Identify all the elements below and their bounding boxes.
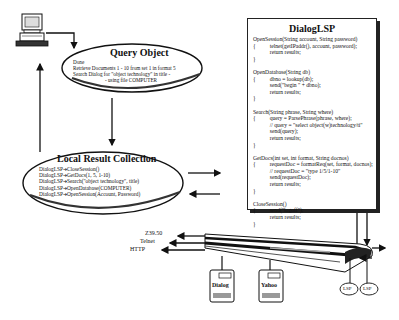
local-result-list: DialogLSP➔CloseSession() DialogLSP➔GetDo… <box>39 166 140 197</box>
dialog-lsp-code: OpenSession(String account, String passw… <box>253 36 376 227</box>
code-line <box>253 62 376 69</box>
code-line: return results; <box>253 181 376 188</box>
code-line: send(query); <box>253 128 376 135</box>
local-result-collection-title: Local Result Collection <box>57 153 156 164</box>
code-line: GetDocs(int set, int format, String docn… <box>253 155 376 162</box>
code-line: } <box>253 221 376 228</box>
code-line: // query = "select object(w)technology/t… <box>253 122 376 129</box>
network-bus <box>205 234 373 272</box>
dialog-lsp-box: DialogLSP OpenSession(String account, St… <box>247 18 377 210</box>
code-line <box>253 148 376 155</box>
code-line: return results; <box>253 214 376 221</box>
dialog-lsp-title: DialogLSP <box>248 23 376 34</box>
code-line <box>253 102 376 109</box>
lsp-label-2: LSP <box>363 286 372 291</box>
server-yahoo-label: Yahoo <box>261 282 277 288</box>
code-line: } <box>253 56 376 63</box>
code-line: } <box>253 95 376 102</box>
code-line: { telnet(getIPaddr(), account, password)… <box>253 43 376 50</box>
protocol-z3950: Z39.50 <box>145 230 162 236</box>
protocol-http: HTTP <box>130 246 145 252</box>
arrow-computer-to-query <box>46 33 74 48</box>
code-line: OpenSession(String account, String passw… <box>253 36 376 43</box>
code-line: Search(String phrase, String where) <box>253 109 376 116</box>
result-item: DialogLSP➔OpenSession(Account, Password) <box>39 191 140 197</box>
protocol-telnet: Telnet <box>140 238 155 244</box>
code-line: { requestDoc = formatReq(set, format, do… <box>253 161 376 168</box>
code-line: { dbno = lookup(db); <box>253 76 376 83</box>
code-line <box>253 194 376 201</box>
code-line: { send("logoff"); <box>253 207 376 214</box>
server-dialog-label: Dialog <box>212 282 229 288</box>
code-line: { query = ParsePhrase(phrase, where); <box>253 115 376 122</box>
code-line: return results; <box>253 89 376 96</box>
query-line: - using file COMPUTER <box>73 78 176 84</box>
lsp-label-1: LSP <box>343 286 352 291</box>
query-object-lines: Done Retrieve Documents 1 - 10 from set … <box>73 60 176 84</box>
code-line: return results; <box>253 135 376 142</box>
query-object-title: Query Object <box>110 47 169 58</box>
code-line: } <box>253 142 376 149</box>
code-line: send("begin " + dbno); <box>253 82 376 89</box>
code-line: CloseSession() <box>253 201 376 208</box>
code-line: // requestDoc = "type 1/5/1-10" <box>253 168 376 175</box>
code-line: } <box>253 188 376 195</box>
result-item: DialogLSP➔Search("object technology", ti… <box>39 178 140 184</box>
code-line: send(requestDoc); <box>253 174 376 181</box>
code-line: return results; <box>253 49 376 56</box>
result-item: DialogLSP➔OpenDatabase(COMPUTER) <box>39 185 140 191</box>
code-line: OpenDatabase(String db) <box>253 69 376 76</box>
computer-icon <box>16 14 48 46</box>
